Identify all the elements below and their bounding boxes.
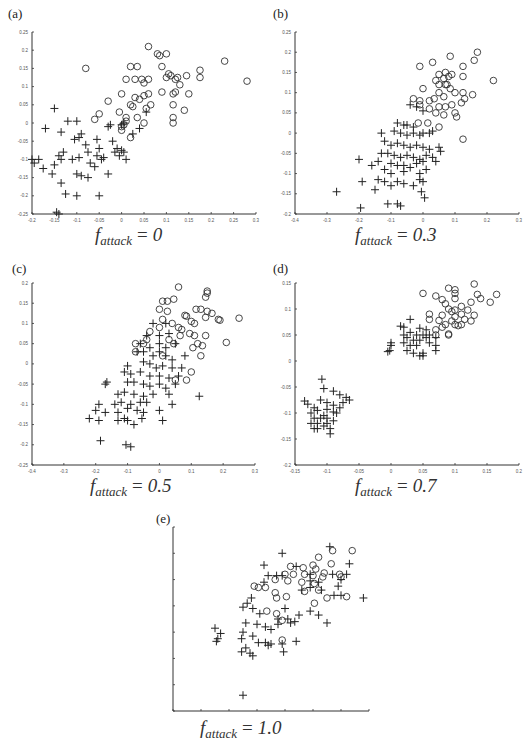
caption-e: fattack=1.0 [200,717,282,742]
y-tick-label: 0.15 [282,281,291,286]
y-tick-label: -0.25 [18,212,29,217]
caption-value: 1.0 [258,717,282,738]
y-tick-label: 0 [288,359,291,364]
x-tick-label: -0.1 [323,469,331,474]
x-tick-label: 0.3 [253,218,260,223]
caption-equals: = [137,224,148,245]
panel-c: (c) -0.4-0.3-0.2-0.100.10.20.3-0.25-0.2-… [0,255,265,505]
y-tick-label: 0 [288,131,291,136]
y-tick-label: 0.1 [285,307,292,312]
caption-value: 0.3 [413,224,437,245]
y-tick-label: -0.05 [18,139,29,144]
circle-markers [132,284,242,384]
scatter-plot-a: -0.2-0.15-0.1-0.0500.050.10.150.20.250.3… [0,0,265,255]
x-tick-label: 0.1 [452,469,459,474]
y-tick-label: 0.05 [282,333,291,338]
y-tick-label: -0.15 [18,422,29,427]
caption-value: 0.7 [413,475,437,496]
y-tick-label: 0.05 [19,341,28,346]
x-tick-label: -0.4 [28,469,36,474]
caption-b: fattack=0.3 [355,224,437,249]
caption-c: fattack=0.5 [90,475,172,500]
caption-a: fattack=0 [95,224,162,249]
x-tick-label: -0.2 [355,218,363,223]
x-tick-label: 0 [390,469,393,474]
y-tick-label: -0.05 [18,382,29,387]
caption-subscript: attack [360,484,392,499]
x-tick-label: 0.25 [229,218,238,223]
cross-markers [301,315,440,437]
x-tick-label: 0.05 [140,218,149,223]
panel-e: (e) fattack=1.0 [130,505,400,753]
x-tick-label: -0.15 [290,469,301,474]
y-tick-label: -0.2 [283,463,291,468]
y-tick-label: -0.05 [281,385,292,390]
caption-subscript: attack [205,726,237,741]
x-tick-label: -0.1 [387,218,395,223]
y-tick-label: 0.1 [285,90,292,95]
x-tick-label: 0.3 [252,469,259,474]
y-tick-label: 0.2 [22,281,29,286]
y-tick-label: 0.15 [19,66,28,71]
caption-equals: = [397,475,408,496]
caption-equals: = [242,717,253,738]
y-tick-label: -0.2 [20,193,28,198]
x-tick-label: 0.2 [208,218,215,223]
caption-subscript: attack [360,233,392,248]
caption-subscript: attack [100,233,132,248]
y-tick-label: -0.15 [18,175,29,180]
cross-markers [211,543,367,700]
y-tick-label: 0.05 [282,110,291,115]
y-tick-label: -0.15 [281,191,292,196]
y-tick-label: 0 [25,361,28,366]
cross-markers [28,104,150,218]
x-tick-label: -0.1 [73,218,81,223]
x-tick-label: -0.2 [28,218,36,223]
x-tick-label: 0.15 [483,469,492,474]
y-tick-label: -0.1 [20,157,28,162]
y-tick-label: 0.25 [19,30,28,35]
y-tick-label: -0.2 [20,442,28,447]
y-tick-label: -0.25 [18,463,29,468]
x-tick-label: 0.2 [516,469,523,474]
scatter-plot-e [130,505,400,753]
cross-markers [333,101,445,212]
x-tick-label: 0.3 [516,218,523,223]
circle-markers [410,49,497,143]
y-tick-label: 0.15 [282,70,291,75]
y-tick-label: 0.1 [22,321,29,326]
axes [173,527,369,711]
caption-subscript: attack [95,484,127,499]
x-tick-label: 0.1 [452,218,459,223]
x-tick-label: 0.2 [220,469,227,474]
x-tick-label: 0.05 [419,469,428,474]
x-tick-label: 0.15 [184,218,193,223]
y-tick-label: 0.2 [22,48,29,53]
y-tick-label: 0.1 [22,84,29,89]
x-tick-label: 0.1 [188,469,195,474]
x-tick-label: -0.3 [60,469,68,474]
y-tick-label: -0.05 [281,151,292,156]
axes: -0.4-0.3-0.2-0.100.10.20.3-0.25-0.2-0.15… [18,281,259,475]
panel-b: (b) -0.4-0.3-0.2-0.100.10.20.3-0.2-0.15-… [265,0,531,255]
axes: -0.4-0.3-0.2-0.100.10.20.3-0.2-0.15-0.1-… [281,30,523,224]
x-tick-label: -0.3 [323,218,331,223]
x-tick-label: -0.4 [291,218,299,223]
x-tick-label: 0 [422,218,425,223]
y-tick-label: 0.15 [19,301,28,306]
circle-markers [420,281,500,339]
scatter-plot-d: -0.15-0.1-0.0500.050.10.150.2-0.2-0.15-0… [265,255,531,505]
x-tick-label: -0.05 [94,218,105,223]
x-tick-label: 0 [120,218,123,223]
caption-value: 0.5 [148,475,172,496]
caption-equals: = [397,224,408,245]
x-tick-label: 0.1 [163,218,170,223]
caption-value: 0 [153,224,163,245]
y-tick-label: 0.05 [19,102,28,107]
scatter-plot-c: -0.4-0.3-0.2-0.100.10.20.3-0.25-0.2-0.15… [0,255,265,505]
panel-d: (d) -0.15-0.1-0.0500.050.10.150.2-0.2-0.… [265,255,531,505]
y-tick-label: -0.1 [283,411,291,416]
y-tick-label: -0.15 [281,437,292,442]
y-tick-label: 0.2 [285,50,292,55]
cross-markers [85,319,203,450]
